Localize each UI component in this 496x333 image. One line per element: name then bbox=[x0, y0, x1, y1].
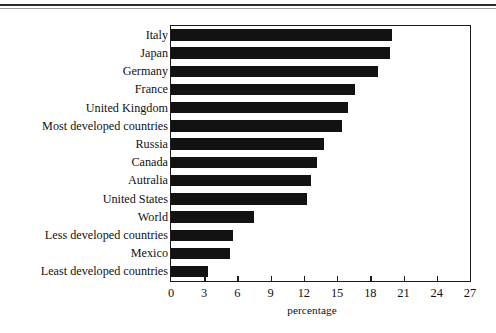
category-label: United States bbox=[0, 193, 168, 205]
x-axis-tick bbox=[437, 276, 438, 282]
category-label: Italy bbox=[0, 29, 168, 41]
x-axis-tick bbox=[204, 276, 205, 282]
category-label: Autralia bbox=[0, 174, 168, 186]
category-label: Canada bbox=[0, 156, 168, 168]
category-label: Least developed countries bbox=[0, 265, 168, 277]
page-top-rule bbox=[0, 4, 496, 6]
category-label: Germany bbox=[0, 65, 168, 77]
category-label: France bbox=[0, 83, 168, 95]
x-axis-tick-label: 27 bbox=[455, 286, 485, 300]
page-top-rule-thin bbox=[0, 8, 496, 9]
category-label: Russia bbox=[0, 138, 168, 150]
x-axis-title: percentage bbox=[0, 304, 496, 316]
x-axis-tick-label: 21 bbox=[389, 286, 419, 300]
x-axis-tick-label: 12 bbox=[289, 286, 319, 300]
category-label: Less developed countries bbox=[0, 229, 168, 241]
x-axis-tick-label: 0 bbox=[156, 286, 186, 300]
x-axis-title-text: percentage bbox=[287, 304, 336, 316]
x-axis-tick-label: 3 bbox=[189, 286, 219, 300]
bar-chart-figure: ItalyJapanGermanyFranceUnited KingdomMos… bbox=[0, 0, 496, 333]
x-axis-ticks bbox=[170, 25, 471, 282]
category-label: Most developed countries bbox=[0, 120, 168, 132]
x-axis-tick bbox=[404, 276, 405, 282]
x-axis-tick-label: 9 bbox=[256, 286, 286, 300]
x-axis-tick-label: 15 bbox=[322, 286, 352, 300]
x-axis-tick bbox=[304, 276, 305, 282]
x-axis-tick bbox=[337, 276, 338, 282]
category-label: Japan bbox=[0, 47, 168, 59]
category-axis-labels: ItalyJapanGermanyFranceUnited KingdomMos… bbox=[0, 26, 168, 281]
x-axis-tick-label: 6 bbox=[222, 286, 252, 300]
category-label: United Kingdom bbox=[0, 102, 168, 114]
category-label: World bbox=[0, 211, 168, 223]
x-axis-tick bbox=[237, 276, 238, 282]
x-axis-tick-label: 18 bbox=[355, 286, 385, 300]
x-axis-tick bbox=[370, 276, 371, 282]
category-label: Mexico bbox=[0, 247, 168, 259]
x-axis-tick-labels: 0369121518212427 bbox=[0, 286, 496, 304]
x-axis-tick bbox=[271, 276, 272, 282]
x-axis-tick-label: 24 bbox=[422, 286, 452, 300]
